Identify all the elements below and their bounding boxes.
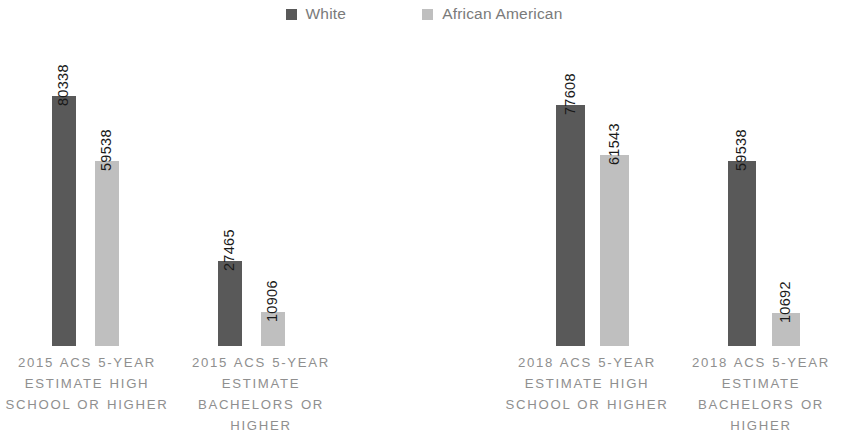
category-axis: 2015 ACS 5-YEAR ESTIMATE HIGH SCHOOL OR … [0, 352, 848, 444]
category-label: 2018 ACS 5-YEAR ESTIMATE BACHELORS OR HI… [674, 352, 848, 436]
category-label: 2015 ACS 5-YEAR ESTIMATE BACHELORS OR HI… [174, 352, 348, 436]
bar-value-label: 10906 [264, 280, 280, 322]
bar-value-label: 61543 [606, 123, 622, 165]
legend-swatch-icon-white [286, 9, 297, 20]
legend-swatch-icon-african-american [422, 9, 433, 20]
category-label: 2018 ACS 5-YEAR ESTIMATE HIGH SCHOOL OR … [500, 352, 674, 415]
legend-label-white: White [306, 5, 347, 23]
chart-legend: White African American [0, 0, 848, 28]
bar-value-label: 80338 [55, 64, 71, 106]
bar[interactable] [600, 155, 629, 346]
bar[interactable] [556, 105, 585, 346]
bar-value-label: 77608 [562, 73, 578, 115]
bar[interactable] [52, 96, 76, 346]
bar[interactable] [728, 161, 756, 346]
legend-item-african-american[interactable]: African American [422, 5, 562, 23]
bar-value-label: 27465 [221, 229, 237, 271]
legend-label-african-american: African American [442, 5, 562, 23]
bar-value-label: 59538 [733, 129, 749, 171]
plot-area: 8033859538274651090677608615435953810692 [0, 28, 848, 346]
bar[interactable] [218, 261, 242, 346]
category-label: 2015 ACS 5-YEAR ESTIMATE HIGH SCHOOL OR … [0, 352, 174, 415]
bar-value-label: 59538 [98, 129, 114, 171]
bar[interactable] [95, 161, 119, 346]
bar-value-label: 10692 [777, 281, 793, 323]
bar-chart: White African American 80338595382746510… [0, 0, 848, 444]
legend-item-white[interactable]: White [286, 5, 347, 23]
